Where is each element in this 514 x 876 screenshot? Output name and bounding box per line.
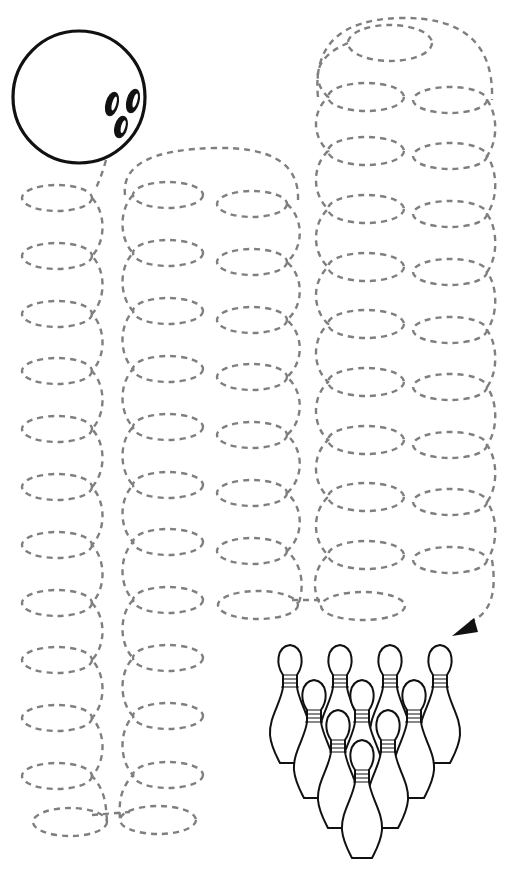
trace-loop [133,182,203,208]
column-3 [217,191,302,619]
trace-spine [287,204,302,605]
trace-loop [22,763,92,789]
trace-loop [133,529,203,555]
trace-loop [328,541,404,569]
trace-loop [217,364,287,390]
bowling-pins-icon [270,645,460,858]
trace-loop [413,317,487,343]
trace-loop [22,185,92,211]
trace-loop [22,474,92,500]
trace-loop [217,249,287,275]
trace-loop [22,532,92,558]
trace-loop [413,143,487,169]
arrow-to-pins [452,618,478,636]
trace-loop [22,590,92,616]
trace-loop [133,298,203,324]
column-1 [22,185,107,836]
trace-loop [133,414,203,440]
column-5 [413,87,495,573]
trace-loop [413,547,487,573]
tracing-worksheet [0,0,514,876]
trace-loop [413,374,487,400]
trace-loop [348,25,432,61]
trace-loop [217,480,287,506]
trace-loop [413,489,487,515]
column-5-to-arrow [470,560,494,622]
trace-spine [120,195,133,820]
trace-loop [328,368,404,396]
trace-loop [133,587,203,613]
trace-loop [328,310,404,338]
trace-loop [133,240,203,266]
trace-loop [413,259,487,285]
trace-loop [133,356,203,382]
trace-loop [328,483,404,511]
ball-to-column-1 [96,160,106,188]
trace-loop [22,705,92,731]
trace-loop [217,422,287,448]
trace-loop [133,645,203,671]
trace-loop [22,416,92,442]
trace-loop [33,808,107,836]
trace-loop [22,358,92,384]
trace-loop [133,472,203,498]
trace-loop [120,806,196,834]
column-2 [120,182,203,834]
column-2-top-arch [125,148,298,200]
trace-loop [321,592,405,620]
trace-loop [217,538,287,564]
trace-loop [133,762,203,788]
trace-loop [328,253,404,281]
trace-loop [22,243,92,269]
trace-loop [328,137,404,165]
trace-loop [328,83,404,111]
trace-loop [217,307,287,333]
trace-loop [22,301,92,327]
trace-loop [218,591,298,619]
trace-spine [92,198,107,822]
bowling-ball-icon [13,31,145,163]
trace-loop [328,426,404,454]
trace-loop [413,432,487,458]
trace-loop [413,201,487,227]
trace-loop [217,191,287,217]
ball-outline [13,31,145,163]
trace-spine [315,43,348,606]
column-4 [315,25,432,620]
trace-loop [133,703,203,729]
trace-loop [328,195,404,223]
trace-loop [22,647,92,673]
arrow-icon [452,618,478,636]
trace-loop [413,87,487,113]
trace-spine [487,100,495,560]
